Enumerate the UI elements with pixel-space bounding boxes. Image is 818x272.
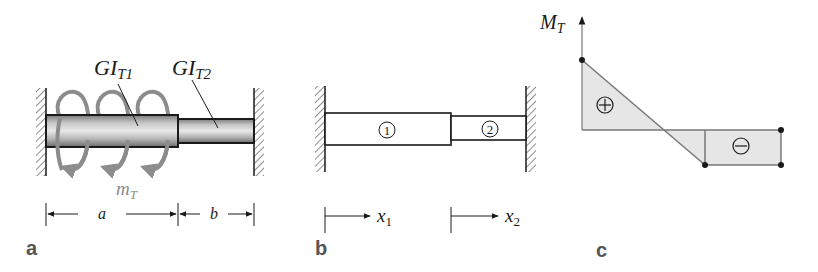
right-fixed-support	[254, 88, 264, 176]
negative-region-2	[705, 130, 781, 165]
label-gi-t1: GIT1	[94, 55, 133, 82]
panel-letter-c: c	[596, 239, 607, 261]
figure-canvas: GIT1 GIT2 mT a b a 1	[0, 0, 818, 272]
svg-text:1: 1	[384, 123, 391, 138]
panel-c: MT c	[539, 11, 784, 261]
svg-text:2: 2	[487, 122, 494, 137]
dimension-a: a	[98, 205, 106, 222]
right-fixed-support	[526, 86, 536, 172]
coordinate-x2	[451, 207, 498, 233]
shaft-segment-2	[178, 119, 254, 143]
left-fixed-support	[315, 86, 325, 172]
label-x1: x1	[376, 205, 392, 229]
dimension-lines	[46, 203, 254, 226]
plus-sign-icon	[597, 97, 613, 113]
panel-letter-b: b	[315, 237, 327, 259]
left-fixed-support	[36, 88, 46, 176]
label-x2: x2	[504, 205, 520, 229]
label-gi-t2: GIT2	[172, 55, 212, 82]
panel-a: GIT1 GIT2 mT a b a	[26, 55, 264, 259]
axis-label-mt: MT	[539, 11, 566, 36]
panel-b: 1 2 x1 x2 b	[315, 86, 536, 259]
coordinate-x1	[325, 207, 370, 233]
panel-letter-a: a	[26, 237, 38, 259]
dimension-b: b	[210, 205, 218, 222]
shaft-segment-1	[46, 115, 178, 147]
label-m-t: mT	[116, 178, 138, 202]
